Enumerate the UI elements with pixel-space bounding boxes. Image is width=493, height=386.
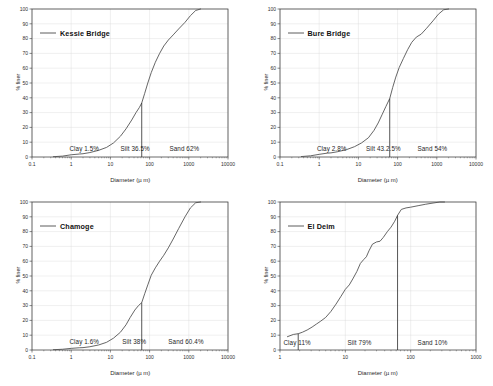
fraction-label: Clay 1.6% bbox=[69, 338, 99, 345]
fraction-label: Clay 11% bbox=[283, 339, 310, 346]
svg-text:10000: 10000 bbox=[469, 161, 483, 167]
svg-text:100: 100 bbox=[145, 161, 154, 167]
svg-text:80: 80 bbox=[270, 228, 276, 234]
svg-text:10: 10 bbox=[108, 161, 114, 167]
legend-label-bure-bridge: Bure Bridge bbox=[308, 29, 351, 38]
x-axis-label: Diameter (µ m) bbox=[7, 370, 254, 376]
plot-chamoge: 01020304050607080901000.1110100100010000 bbox=[0, 193, 247, 386]
svg-text:100: 100 bbox=[393, 161, 402, 167]
svg-text:10: 10 bbox=[355, 161, 361, 167]
fraction-label: Silt 43.2.5% bbox=[366, 145, 401, 152]
y-axis-label: % finer bbox=[15, 245, 21, 305]
x-axis-label: Diameter (µ m) bbox=[7, 177, 254, 183]
svg-text:10000: 10000 bbox=[221, 161, 235, 167]
figure-grid: 01020304050607080901000.1110100100010000… bbox=[0, 0, 493, 386]
legend-label-chamoge: Chamoge bbox=[60, 222, 94, 231]
svg-text:70: 70 bbox=[270, 243, 276, 249]
svg-text:0.1: 0.1 bbox=[29, 354, 36, 360]
svg-text:10: 10 bbox=[270, 139, 276, 145]
fraction-label: Sand 60.4% bbox=[168, 338, 203, 345]
svg-text:70: 70 bbox=[22, 243, 28, 249]
svg-text:100: 100 bbox=[145, 354, 154, 360]
svg-text:20: 20 bbox=[270, 317, 276, 323]
svg-text:50: 50 bbox=[270, 80, 276, 86]
svg-text:0: 0 bbox=[25, 154, 28, 160]
svg-text:1000: 1000 bbox=[431, 161, 442, 167]
svg-text:90: 90 bbox=[270, 21, 276, 27]
chart-panel-bure-bridge: 01020304050607080901000.1110100100010000… bbox=[247, 0, 493, 193]
x-axis-label: Diameter (µ m) bbox=[255, 370, 493, 376]
y-axis-label: % finer bbox=[15, 52, 21, 112]
svg-text:0: 0 bbox=[25, 347, 28, 353]
svg-text:90: 90 bbox=[22, 214, 28, 220]
svg-text:80: 80 bbox=[270, 35, 276, 41]
svg-text:40: 40 bbox=[270, 95, 276, 101]
fraction-label: Silt 36.5% bbox=[120, 145, 149, 152]
svg-text:1: 1 bbox=[70, 354, 73, 360]
chart-panel-el-deim: 01020304050607080901001101001000 % finer… bbox=[247, 193, 493, 386]
svg-text:1000: 1000 bbox=[183, 354, 194, 360]
svg-text:90: 90 bbox=[270, 214, 276, 220]
svg-text:1: 1 bbox=[278, 354, 281, 360]
svg-text:60: 60 bbox=[270, 65, 276, 71]
x-axis-label: Diameter (µ m) bbox=[255, 177, 493, 183]
chart-panel-kessie-bridge: 01020304050607080901000.1110100100010000… bbox=[0, 0, 247, 193]
svg-text:10: 10 bbox=[22, 139, 28, 145]
fraction-label: Clay 1.5% bbox=[69, 145, 99, 152]
svg-text:10: 10 bbox=[270, 332, 276, 338]
svg-text:60: 60 bbox=[22, 258, 28, 264]
y-axis-label: % finer bbox=[263, 52, 269, 112]
svg-text:30: 30 bbox=[270, 302, 276, 308]
svg-text:10: 10 bbox=[108, 354, 114, 360]
svg-text:20: 20 bbox=[22, 317, 28, 323]
plot-el-deim: 01020304050607080901001101001000 bbox=[247, 193, 493, 386]
svg-text:80: 80 bbox=[22, 35, 28, 41]
svg-text:1000: 1000 bbox=[183, 161, 194, 167]
svg-text:30: 30 bbox=[22, 302, 28, 308]
plot-kessie-bridge: 01020304050607080901000.1110100100010000 bbox=[0, 0, 247, 193]
svg-text:60: 60 bbox=[270, 258, 276, 264]
svg-text:100: 100 bbox=[267, 6, 276, 12]
fraction-label: Clay 2.8% bbox=[317, 145, 347, 152]
svg-text:100: 100 bbox=[20, 6, 29, 12]
svg-text:0.1: 0.1 bbox=[276, 161, 283, 167]
svg-text:60: 60 bbox=[22, 65, 28, 71]
svg-text:50: 50 bbox=[22, 80, 28, 86]
svg-text:40: 40 bbox=[270, 288, 276, 294]
svg-text:1: 1 bbox=[317, 161, 320, 167]
svg-text:20: 20 bbox=[22, 124, 28, 130]
svg-text:1000: 1000 bbox=[470, 354, 481, 360]
svg-text:1: 1 bbox=[70, 161, 73, 167]
svg-text:100: 100 bbox=[267, 199, 276, 205]
legend-label-kessie-bridge: Kessie Bridge bbox=[60, 29, 110, 38]
svg-text:10000: 10000 bbox=[221, 354, 235, 360]
svg-text:100: 100 bbox=[20, 199, 29, 205]
svg-text:30: 30 bbox=[270, 109, 276, 115]
svg-text:0: 0 bbox=[273, 154, 276, 160]
fraction-label: Silt 38% bbox=[122, 338, 146, 345]
svg-text:70: 70 bbox=[22, 50, 28, 56]
svg-text:40: 40 bbox=[22, 95, 28, 101]
svg-text:50: 50 bbox=[22, 273, 28, 279]
legend-label-el-deim: El Deim bbox=[308, 222, 335, 231]
chart-panel-chamoge: 01020304050607080901000.1110100100010000… bbox=[0, 193, 247, 386]
svg-text:100: 100 bbox=[406, 354, 415, 360]
svg-text:40: 40 bbox=[22, 288, 28, 294]
svg-text:20: 20 bbox=[270, 124, 276, 130]
svg-text:0.1: 0.1 bbox=[29, 161, 36, 167]
fraction-label: Sand 62% bbox=[169, 145, 199, 152]
svg-text:80: 80 bbox=[22, 228, 28, 234]
svg-text:10: 10 bbox=[342, 354, 348, 360]
svg-text:70: 70 bbox=[270, 50, 276, 56]
svg-text:50: 50 bbox=[270, 273, 276, 279]
fraction-label: Sand 54% bbox=[417, 145, 447, 152]
plot-bure-bridge: 01020304050607080901000.1110100100010000 bbox=[247, 0, 493, 193]
fraction-label: Silt 79% bbox=[348, 339, 372, 346]
svg-text:30: 30 bbox=[22, 109, 28, 115]
svg-text:0: 0 bbox=[273, 347, 276, 353]
y-axis-label: % finer bbox=[263, 245, 269, 305]
svg-text:10: 10 bbox=[22, 332, 28, 338]
fraction-label: Sand 10% bbox=[418, 339, 448, 346]
svg-text:90: 90 bbox=[22, 21, 28, 27]
